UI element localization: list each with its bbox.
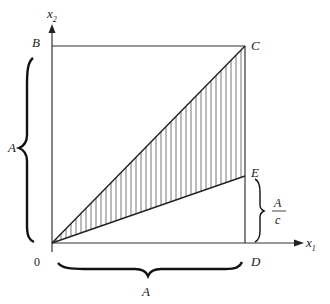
origin-label: 0 [34, 256, 40, 268]
x1-axis-label: x1 [306, 236, 316, 253]
point-E-label: E [251, 166, 259, 179]
x2-axis-label: x2 [47, 7, 57, 24]
right-brace-denominator: c [275, 214, 280, 226]
line-0E [52, 176, 245, 243]
diagram: x2 x1 0 B C E D A A A c [0, 0, 330, 304]
right-brace [255, 179, 264, 242]
right-brace-numerator: A [274, 197, 281, 209]
point-D-label: D [251, 255, 260, 268]
point-C-label: C [251, 39, 260, 52]
x1-axis-arrow-icon [294, 240, 304, 247]
bottom-brace [58, 262, 242, 276]
point-B-label: B [32, 36, 40, 49]
bottom-brace-label: A [142, 285, 150, 298]
diagram-graphics [0, 0, 330, 304]
left-brace-label: A [8, 141, 16, 154]
x2-axis-arrow-icon [49, 24, 56, 33]
left-brace [19, 58, 34, 242]
